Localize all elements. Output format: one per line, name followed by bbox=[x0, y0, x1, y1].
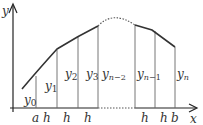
label-y0: y0 bbox=[23, 93, 37, 108]
label-y2: y2 bbox=[64, 67, 78, 82]
y-axis-label: y bbox=[1, 4, 9, 18]
ordinate-labels: y0 y1 y2 y3 yn−2 yn−1 yn bbox=[23, 67, 189, 108]
tick-h1: h bbox=[43, 111, 51, 125]
tick-h2: h bbox=[63, 111, 71, 125]
tick-h3: h bbox=[84, 111, 92, 125]
label-y3: y3 bbox=[85, 67, 99, 82]
tick-h5: h bbox=[160, 111, 168, 125]
label-yn-1: yn−1 bbox=[136, 67, 161, 82]
y-axis bbox=[9, 4, 17, 112]
trapezoid-diagram: y x y0 y1 y2 y3 yn−2 yn−1 yn a h h h bbox=[0, 0, 203, 125]
x-axis-label: x bbox=[190, 112, 197, 125]
tick-a: a bbox=[32, 111, 39, 125]
tick-b: b bbox=[171, 111, 179, 125]
label-y1: y1 bbox=[44, 79, 58, 94]
label-yn: yn bbox=[176, 67, 189, 82]
tick-h4: h bbox=[141, 111, 149, 125]
x-tick-labels: a h h h h h b bbox=[32, 111, 179, 125]
label-yn-2: yn−2 bbox=[101, 67, 126, 82]
